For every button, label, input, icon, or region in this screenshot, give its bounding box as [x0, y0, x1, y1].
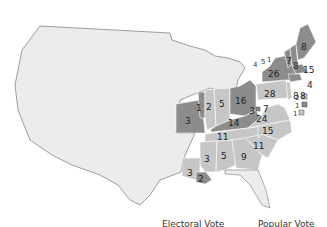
electoral-map: 8 7 8 15 4 8 26 4 5 1 8 28 2 1 1 3 7 24 …	[0, 0, 327, 227]
ev-NH: 7	[286, 56, 292, 66]
ev-NC: 15	[262, 126, 273, 136]
ev-MS: 3	[204, 154, 210, 164]
ev-IL: 2	[206, 102, 212, 112]
ev-MD-inland-b: 7	[263, 104, 269, 114]
ev-KY: 14	[228, 118, 240, 128]
ev-OH: 16	[235, 96, 247, 106]
ev-VA: 24	[256, 114, 268, 124]
ev-IN: 5	[219, 99, 225, 109]
ev-AL: 5	[221, 151, 227, 161]
ev-ME: 8	[301, 42, 307, 52]
ev-MD-b: 1	[293, 110, 297, 118]
ev-GA: 9	[241, 152, 247, 162]
ev-LA-split: 2	[198, 174, 204, 184]
state-CT	[288, 74, 302, 82]
ev-IL-split: 1	[196, 103, 202, 113]
ev-RI: 4	[307, 80, 313, 90]
ev-PA: 28	[264, 89, 276, 99]
legend-square-MD-b	[299, 110, 304, 115]
ev-CT: 8	[300, 91, 306, 101]
legend-electoral-vote: Electoral Vote	[162, 219, 224, 227]
ev-SC: 11	[253, 141, 264, 151]
ev-NY: 26	[268, 69, 280, 79]
ev-NY-split-1: 4	[253, 61, 258, 69]
ev-MD-a: 1	[295, 102, 299, 110]
ev-TN: 11	[217, 132, 228, 142]
ev-MO: 3	[185, 116, 191, 126]
ev-LA: 3	[187, 168, 193, 178]
ev-MA: 15	[303, 65, 314, 75]
legend-square-MD-a	[302, 102, 307, 107]
legend-popular-vote: Popular Vote	[258, 219, 315, 227]
ev-NY-split-3: 1	[267, 56, 271, 64]
ev-NY-split-2: 5	[261, 58, 265, 66]
ev-DE: 2	[295, 94, 299, 102]
state-MD-split	[256, 107, 260, 111]
ev-MD-inland: 3	[249, 106, 255, 116]
ev-VT: 8	[293, 61, 299, 71]
territory-FL	[225, 170, 270, 208]
